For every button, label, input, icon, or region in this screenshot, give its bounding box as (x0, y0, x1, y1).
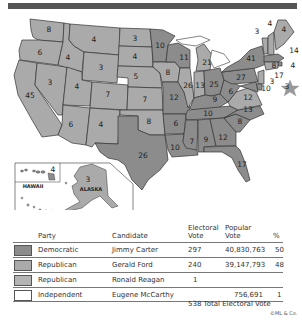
percent: 50 (275, 246, 284, 254)
header-party: Party (38, 232, 56, 240)
svg-text:10: 10 (203, 109, 213, 118)
party: Independent (38, 291, 82, 299)
svg-text:4: 4 (133, 52, 138, 61)
svg-text:8: 8 (166, 68, 171, 77)
svg-text:3: 3 (86, 175, 91, 184)
candidate: Eugene McCarthy (112, 291, 174, 299)
header-popular-1: Popular (225, 224, 251, 232)
svg-text:8: 8 (238, 117, 243, 126)
svg-text:13: 13 (195, 81, 205, 90)
republican-reagan-swatch (14, 275, 32, 286)
header-electoral-1: Electoral (188, 224, 219, 232)
svg-text:9: 9 (213, 95, 218, 104)
dc-star-icon: 3 (281, 80, 299, 96)
alaska-hawaii-inset: 4 HAWAII 3 ALASKA (15, 163, 133, 210)
legend-row-reagan: Republican Ronald Reagan 1 (13, 272, 283, 287)
party: Republican (38, 276, 77, 284)
candidate: Jimmy Carter (112, 246, 158, 254)
state-ri (278, 62, 282, 66)
republican-swatch (14, 260, 32, 271)
percent: 1 (277, 291, 281, 299)
svg-text:12: 12 (169, 93, 179, 102)
svg-text:4: 4 (282, 25, 287, 34)
svg-text:6: 6 (69, 120, 74, 129)
svg-text:5: 5 (134, 72, 139, 81)
svg-text:3: 3 (133, 34, 138, 43)
state-nh (268, 32, 274, 56)
svg-text:4: 4 (75, 82, 80, 91)
independent-swatch (14, 290, 32, 301)
header-candidate: Candidate (112, 232, 148, 240)
header-popular-2: Vote (225, 232, 241, 240)
svg-text:4: 4 (66, 53, 71, 62)
svg-text:10: 10 (170, 143, 180, 152)
svg-text:11: 11 (179, 53, 189, 62)
svg-text:12: 12 (218, 133, 228, 142)
popular-votes: 40,830,763 (225, 246, 265, 254)
electoral-votes: 240 (188, 261, 201, 269)
svg-text:12: 12 (243, 93, 253, 102)
state-az (58, 105, 90, 145)
svg-text:8: 8 (147, 117, 152, 126)
svg-text:26: 26 (138, 151, 148, 160)
svg-text:4: 4 (99, 120, 104, 129)
legend-header: Party Candidate Electoral Vote Popular V… (13, 220, 283, 242)
popular-votes: 39,147,793 (225, 261, 265, 269)
party: Republican (38, 261, 77, 269)
svg-text:6: 6 (38, 48, 43, 57)
candidate: Gerald Ford (112, 261, 153, 269)
svg-text:21: 21 (202, 58, 212, 67)
candidate: Ronald Reagan (112, 276, 165, 284)
legend-row-carter: Democratic Jimmy Carter 297 40,830,763 5… (13, 242, 283, 257)
header-electoral-2: Vote (188, 232, 204, 240)
results-legend-table: Party Candidate Electoral Vote Popular V… (13, 220, 283, 302)
svg-text:25: 25 (209, 80, 219, 89)
electoral-votes: 1 (193, 276, 197, 284)
header-percent: % (273, 232, 280, 240)
svg-text:17: 17 (274, 71, 284, 80)
svg-text:14: 14 (289, 46, 299, 55)
svg-text:7: 7 (143, 95, 148, 104)
title-bar (8, 3, 297, 9)
party: Democratic (38, 246, 78, 254)
svg-text:7: 7 (190, 137, 195, 146)
svg-text:4: 4 (51, 165, 56, 174)
svg-text:4: 4 (268, 19, 273, 28)
svg-text:7: 7 (106, 90, 111, 99)
svg-text:45: 45 (25, 91, 35, 100)
svg-text:10: 10 (155, 41, 165, 50)
svg-text:6: 6 (174, 119, 179, 128)
svg-text:3: 3 (285, 82, 290, 91)
state-ny (222, 46, 266, 72)
svg-text:26: 26 (183, 81, 193, 90)
democratic-swatch (14, 245, 32, 256)
svg-text:10: 10 (261, 84, 271, 93)
legend-row-ford: Republican Gerald Ford 240 39,147,793 48 (13, 257, 283, 272)
svg-text:HAWAII: HAWAII (23, 183, 44, 189)
popular-votes: 756,691 (234, 291, 263, 299)
svg-text:3: 3 (99, 63, 104, 72)
svg-text:8: 8 (272, 61, 277, 70)
svg-text:6: 6 (229, 87, 234, 96)
total-electoral-vote: 538 Total Electoral Vote (188, 300, 271, 308)
svg-text:3: 3 (48, 78, 53, 87)
svg-text:4: 4 (92, 35, 97, 44)
state-nj (258, 70, 264, 84)
svg-text:27: 27 (236, 73, 246, 82)
svg-text:ALASKA: ALASKA (80, 186, 102, 192)
svg-text:17: 17 (237, 160, 247, 169)
svg-text:8: 8 (47, 25, 52, 34)
us-electoral-map: 8 6 45 4 3 4 3 4 7 6 4 3 4 5 7 8 26 10 8… (0, 10, 302, 210)
svg-text:4: 4 (291, 61, 296, 70)
svg-text:3: 3 (255, 27, 260, 36)
percent: 48 (275, 261, 284, 269)
svg-text:9: 9 (204, 135, 209, 144)
copyright-credit: ©ML & Co. (270, 310, 297, 316)
svg-text:13: 13 (243, 105, 253, 114)
electoral-votes: 297 (188, 246, 201, 254)
svg-text:41: 41 (246, 54, 256, 63)
